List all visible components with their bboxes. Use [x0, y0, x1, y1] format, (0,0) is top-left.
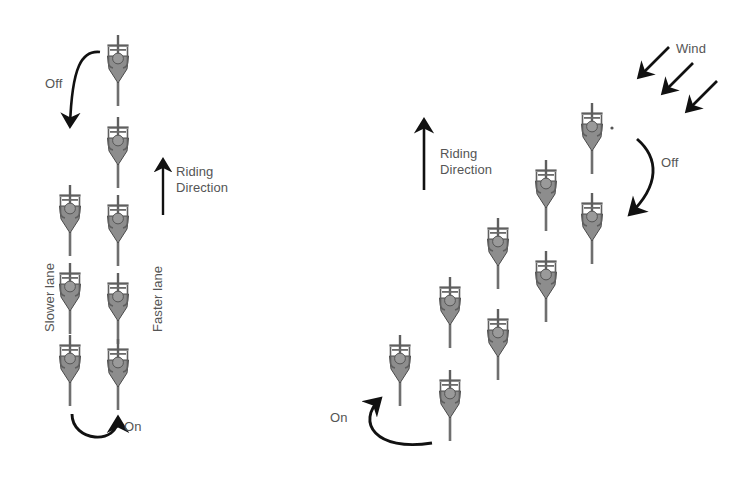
- cyclist-icon: [107, 195, 128, 266]
- left-panel-riders: [59, 35, 128, 410]
- riding-direction-line2: Direction: [176, 180, 228, 196]
- cyclist-icon: [59, 335, 80, 406]
- cyclist-icon: [581, 193, 602, 264]
- cyclist-icon: [389, 335, 410, 406]
- riding-direction-label-left: Riding Direction: [176, 164, 228, 197]
- faster-lane-label: Faster lane: [150, 266, 166, 332]
- cyclist-icon: [107, 35, 128, 106]
- wind-arrow-icon: [639, 47, 669, 77]
- cyclist-icon: [439, 370, 460, 441]
- cyclist-icon: [487, 218, 508, 289]
- slower-lane-label: Slower lane: [42, 263, 58, 332]
- diagram-canvas: Off On Riding Direction Slower lane Fast…: [0, 0, 735, 497]
- wind-arrow-icon: [663, 63, 693, 93]
- lead-marker-dot: [610, 126, 613, 129]
- cyclist-icon: [107, 117, 128, 188]
- right-panel-riders: [389, 103, 602, 441]
- diagram-svg: [0, 0, 735, 497]
- wind-arrow-icon: [687, 81, 717, 111]
- on-label-left: On: [124, 419, 142, 435]
- riding-direction-label-right: Riding Direction: [440, 146, 492, 179]
- riding-direction-line1: Riding: [440, 146, 492, 162]
- cyclist-icon: [439, 277, 460, 348]
- cyclist-icon: [535, 251, 556, 322]
- wind-label: Wind: [676, 41, 706, 57]
- off-arrow-left: [70, 52, 100, 126]
- on-arrow-left: [72, 414, 118, 437]
- cyclist-icon: [59, 185, 80, 256]
- off-label-right: Off: [661, 155, 678, 171]
- cyclist-icon: [581, 103, 602, 174]
- cyclist-icon: [59, 263, 80, 334]
- off-arrow-right: [630, 139, 653, 214]
- cyclist-icon: [487, 309, 508, 380]
- off-label-left: Off: [45, 76, 62, 92]
- riding-direction-line1: Riding: [176, 164, 228, 180]
- riding-direction-line2: Direction: [440, 162, 492, 178]
- cyclist-icon: [107, 273, 128, 344]
- on-label-right: On: [330, 410, 348, 426]
- cyclist-icon: [107, 339, 128, 410]
- cyclist-icon: [535, 160, 556, 231]
